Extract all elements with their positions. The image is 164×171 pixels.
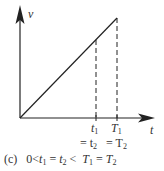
- velocity-line: [20, 18, 117, 118]
- caption-part: =: [93, 152, 106, 166]
- marker-eq-t2-sub: 2: [93, 142, 97, 151]
- caption-part: 0<: [26, 152, 39, 166]
- marker-eq-T2-main: = T: [106, 136, 123, 150]
- marker-eq-t2-main: = t: [80, 136, 93, 150]
- marker-T1-main: T: [111, 121, 118, 135]
- marker-eq-t2: = t2: [80, 137, 97, 153]
- caption-part: <: [67, 152, 83, 166]
- caption-part: 2: [113, 158, 117, 167]
- x-axis-label: t: [150, 124, 153, 136]
- caption-part: =: [46, 152, 59, 166]
- y-axis-label: v: [28, 8, 33, 20]
- marker-T1-sub: 1: [118, 127, 122, 136]
- caption-prefix: (c): [4, 152, 17, 166]
- marker-t1-sub: 1: [94, 127, 98, 136]
- marker-eq-T2-sub: 2: [123, 142, 127, 151]
- marker-eq-T2: = T2: [106, 137, 127, 153]
- figure-caption: (c) 0<t1 = t2 < T1 = T2: [4, 152, 117, 170]
- caption-part: T: [106, 152, 113, 166]
